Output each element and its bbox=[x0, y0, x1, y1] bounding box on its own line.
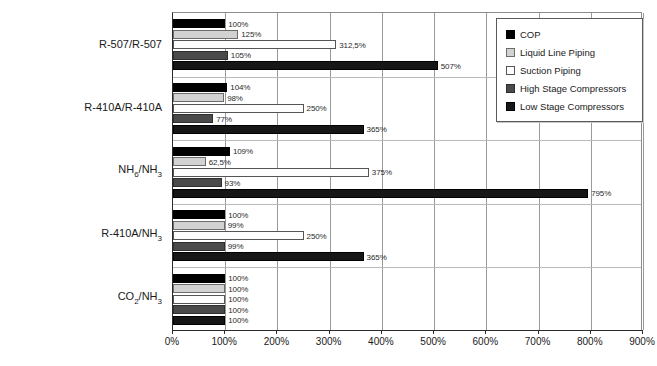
legend-label: Low Stage Compressors bbox=[520, 101, 624, 112]
x-axis-tick-label: 300% bbox=[316, 336, 342, 347]
bar-row: 795% bbox=[173, 189, 641, 198]
bar bbox=[173, 210, 225, 219]
x-axis-tick-label: 200% bbox=[264, 336, 290, 347]
bar-value-label: 250% bbox=[307, 231, 327, 240]
bar-row: 62,5% bbox=[173, 157, 641, 166]
bar-value-label: 100% bbox=[228, 284, 248, 293]
x-axis-tick bbox=[224, 330, 225, 334]
x-axis-tick bbox=[485, 330, 486, 334]
bar-value-label: 250% bbox=[307, 104, 327, 113]
bar bbox=[173, 252, 364, 261]
bar bbox=[173, 157, 206, 166]
bar-value-label: 99% bbox=[228, 242, 244, 251]
bar bbox=[173, 284, 225, 293]
bar bbox=[173, 242, 225, 251]
bar-value-label: 100% bbox=[228, 19, 248, 28]
bar bbox=[173, 83, 227, 92]
category-label: R-507/R-507 bbox=[99, 38, 162, 50]
x-axis-tick-label: 100% bbox=[211, 336, 237, 347]
bar-value-label: 365% bbox=[367, 252, 387, 261]
bar-value-label: 100% bbox=[228, 274, 248, 283]
x-axis-tick-label: 600% bbox=[473, 336, 499, 347]
bar-value-label: 365% bbox=[367, 125, 387, 134]
bar-row: 100% bbox=[173, 316, 641, 325]
bar-value-label: 375% bbox=[372, 168, 392, 177]
bar bbox=[173, 147, 230, 156]
x-axis-tick bbox=[433, 330, 434, 334]
bar-value-label: 104% bbox=[230, 83, 250, 92]
bar bbox=[173, 51, 228, 60]
bar bbox=[173, 189, 588, 198]
x-axis-tick-label: 800% bbox=[577, 336, 603, 347]
x-axis-tick bbox=[538, 330, 539, 334]
x-axis-tick-label: 700% bbox=[525, 336, 551, 347]
bar-row: 100% bbox=[173, 284, 641, 293]
bar-value-label: 100% bbox=[228, 210, 248, 219]
category-label: R-410A/R-410A bbox=[84, 101, 162, 113]
legend-item[interactable]: Suction Piping bbox=[506, 62, 634, 78]
category-separator bbox=[173, 204, 641, 205]
bar-row: 99% bbox=[173, 242, 641, 251]
legend-label: Suction Piping bbox=[520, 65, 581, 76]
bar bbox=[173, 114, 213, 123]
x-axis-tick bbox=[329, 330, 330, 334]
category-label: CO2/NH3 bbox=[118, 291, 162, 306]
chart-legend: COPLiquid Line PipingSuction PipingHigh … bbox=[496, 18, 643, 122]
legend-item[interactable]: Liquid Line Piping bbox=[506, 44, 634, 60]
bar bbox=[173, 221, 225, 230]
bar bbox=[173, 295, 225, 304]
x-axis-tick bbox=[172, 330, 173, 334]
bar-value-label: 105% bbox=[231, 51, 251, 60]
legend-label: High Stage Compressors bbox=[520, 83, 626, 94]
bar-row: 93% bbox=[173, 178, 641, 187]
x-axis-tick-label: 0% bbox=[165, 336, 179, 347]
bar-row: 365% bbox=[173, 252, 641, 261]
category-label: NH6/NH3 bbox=[118, 163, 162, 178]
bar-value-label: 125% bbox=[241, 30, 261, 39]
x-axis-tick-label: 400% bbox=[368, 336, 394, 347]
bar bbox=[173, 274, 225, 283]
bar bbox=[173, 231, 304, 240]
x-axis-tick bbox=[590, 330, 591, 334]
legend-label: Liquid Line Piping bbox=[520, 47, 595, 58]
bar-row: 100% bbox=[173, 305, 641, 314]
x-axis-tick bbox=[642, 330, 643, 334]
bar-row: 100% bbox=[173, 295, 641, 304]
bar bbox=[173, 61, 438, 70]
x-axis-tick bbox=[381, 330, 382, 334]
bar-value-label: 93% bbox=[225, 178, 241, 187]
legend-swatch-icon bbox=[506, 30, 515, 39]
legend-item[interactable]: COP bbox=[506, 26, 634, 42]
bar-row: 99% bbox=[173, 221, 641, 230]
bar bbox=[173, 125, 364, 134]
category-separator bbox=[173, 140, 641, 141]
bar-row: 250% bbox=[173, 231, 641, 240]
bar-value-label: 99% bbox=[228, 221, 244, 230]
bar-value-label: 795% bbox=[591, 189, 611, 198]
category-axis-labels: R-507/R-507R-410A/R-410ANH6/NH3R-410A/NH… bbox=[0, 12, 168, 330]
bar-value-label: 62,5% bbox=[209, 157, 231, 166]
bar-row: 100% bbox=[173, 210, 641, 219]
x-axis-tick bbox=[276, 330, 277, 334]
bar-row: 365% bbox=[173, 125, 641, 134]
legend-item[interactable]: Low Stage Compressors bbox=[506, 98, 634, 114]
category-label: R-410A/NH3 bbox=[101, 227, 162, 242]
bar-chart: R-507/R-507R-410A/R-410ANH6/NH3R-410A/NH… bbox=[0, 0, 657, 366]
bar-value-label: 109% bbox=[233, 147, 253, 156]
bar bbox=[173, 305, 225, 314]
bar bbox=[173, 168, 369, 177]
category-separator bbox=[173, 267, 641, 268]
bar bbox=[173, 19, 225, 28]
legend-item[interactable]: High Stage Compressors bbox=[506, 80, 634, 96]
bar-row: 100% bbox=[173, 274, 641, 283]
legend-swatch-icon bbox=[506, 66, 515, 75]
x-axis: 0%100%200%300%400%500%600%700%800%900% bbox=[172, 330, 642, 360]
legend-label: COP bbox=[520, 29, 541, 40]
bar-row: 109% bbox=[173, 147, 641, 156]
x-axis-tick-label: 900% bbox=[629, 336, 655, 347]
bar bbox=[173, 104, 304, 113]
bar bbox=[173, 40, 336, 49]
bar-value-label: 100% bbox=[228, 316, 248, 325]
x-axis-tick-label: 500% bbox=[420, 336, 446, 347]
bar bbox=[173, 178, 222, 187]
